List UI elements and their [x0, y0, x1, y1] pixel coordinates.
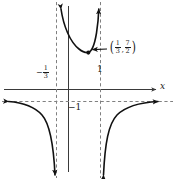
fraction-one-third: 13 — [43, 65, 49, 80]
minimum-point-marker — [86, 51, 90, 55]
minimum-point-label: (13,72) — [109, 40, 137, 55]
horizontal-asymptote-label: −1 — [68, 103, 81, 112]
callout-arrow — [93, 49, 108, 50]
minus-sign: − — [36, 69, 43, 77]
x-axis-label: x — [160, 82, 165, 91]
curve-branches — [9, 9, 159, 175]
curve-branch-right — [104, 102, 159, 176]
fraction-numerator: 1 — [43, 65, 49, 72]
graph-canvas — [0, 0, 175, 179]
close-paren: ) — [132, 40, 136, 55]
vertical-asymptote-right-label: 1 — [97, 65, 103, 74]
rational-function-graph: −13 1 −1 x (13,72) — [0, 0, 175, 179]
comma-separator: , — [121, 46, 125, 54]
fraction-denominator: 2 — [125, 47, 131, 55]
open-paren: ( — [110, 40, 114, 55]
fraction-denominator: 3 — [43, 72, 49, 80]
fraction-y-coordinate: 72 — [125, 40, 131, 55]
vertical-asymptote-left-label: −13 — [36, 64, 49, 80]
curve-branch-middle — [61, 9, 99, 53]
axes — [4, 6, 156, 172]
fraction-numerator: 7 — [125, 40, 131, 47]
curve-branch-left — [9, 102, 56, 176]
